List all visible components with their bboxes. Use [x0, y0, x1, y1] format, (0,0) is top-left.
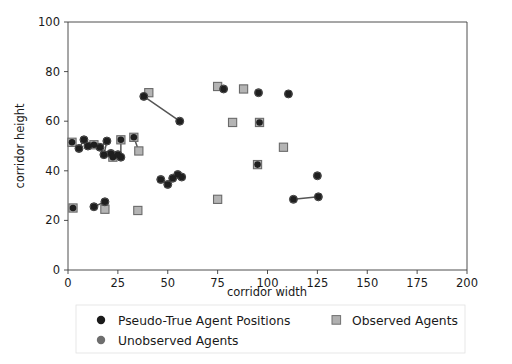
observed-agent-marker: [228, 118, 236, 126]
legend-marker-observed-icon: [332, 316, 341, 325]
observed-agent-marker: [239, 85, 247, 93]
pseudo-true-agent-marker: [85, 143, 92, 150]
pseudo-true-agent-marker: [285, 91, 292, 98]
x-tick-label: 150: [356, 276, 378, 290]
pseudo-true-agent-marker: [76, 145, 83, 152]
pseudo-true-agent-marker: [70, 205, 77, 212]
pseudo-true-agent-marker: [314, 172, 321, 179]
pseudo-true-agent-marker: [176, 118, 183, 125]
pseudo-true-agent-marker: [104, 138, 111, 145]
y-tick-label: 100: [38, 15, 60, 29]
pseudo-true-agent-marker: [91, 141, 98, 148]
legend-marker-unobserved-icon: [97, 336, 105, 344]
pseudo-true-agent-marker: [102, 199, 109, 206]
x-tick-label: 125: [306, 276, 328, 290]
pseudo-true-agent-marker: [254, 161, 261, 168]
legend-marker-pseudo-true-icon: [97, 316, 105, 324]
x-tick-label: 175: [406, 276, 428, 290]
x-tick-label: 25: [111, 276, 126, 290]
x-axis-label: corridor width: [227, 285, 307, 299]
pseudo-true-agent-marker: [91, 203, 98, 210]
pseudo-true-agent-marker: [255, 89, 262, 96]
y-tick-label: 20: [45, 213, 60, 227]
pseudo-true-agent-marker: [157, 176, 164, 183]
y-tick-label: 60: [45, 114, 60, 128]
pseudo-true-agent-marker: [118, 154, 125, 161]
y-tick-label: 40: [45, 164, 60, 178]
pseudo-true-agent-marker: [315, 194, 322, 201]
pseudo-true-agent-marker: [141, 93, 148, 100]
pseudo-true-agent-marker: [178, 174, 185, 181]
pseudo-true-agent-marker: [81, 137, 88, 144]
y-tick-label: 0: [53, 263, 60, 277]
legend-label-unobserved: Unobserved Agents: [118, 334, 239, 348]
x-tick-label: 200: [456, 276, 478, 290]
observed-agent-marker: [101, 205, 109, 213]
pseudo-true-agent-marker: [101, 151, 108, 158]
observed-agent-marker: [134, 206, 142, 214]
observed-agent-marker: [214, 195, 222, 203]
x-tick-label: 50: [160, 276, 175, 290]
observed-agent-marker: [135, 147, 143, 155]
pseudo-true-agent-marker: [256, 119, 263, 126]
pseudo-true-agent-marker: [118, 137, 125, 144]
x-tick-label: 0: [64, 276, 71, 290]
pseudo-true-agent-marker: [290, 196, 297, 203]
pseudo-true-agent-marker: [220, 86, 227, 93]
legend-label-observed: Observed Agents: [352, 314, 458, 328]
observed-agent-marker: [279, 143, 287, 151]
y-axis-label: corridor height: [13, 103, 27, 189]
x-tick-label: 75: [210, 276, 225, 290]
scatter-plot: 0255075100125150175200 020406080100 corr…: [0, 0, 512, 364]
pseudo-true-agent-marker: [97, 144, 104, 151]
legend-label-pseudo-true: Pseudo-True Agent Positions: [118, 314, 290, 328]
chart-figure: 0255075100125150175200 020406080100 corr…: [0, 0, 512, 364]
pseudo-true-agent-marker: [131, 134, 138, 141]
y-tick-label: 80: [45, 65, 60, 79]
pseudo-true-agent-marker: [69, 139, 76, 146]
chart-legend: Pseudo-True Agent Positions Observed Age…: [76, 305, 465, 353]
pseudo-true-agent-marker: [164, 181, 171, 188]
